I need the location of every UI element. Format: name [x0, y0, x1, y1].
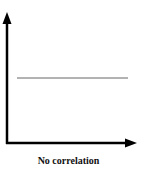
- x-axis-arrow-icon: [125, 139, 137, 148]
- x-axis: [6, 139, 137, 148]
- diagram-caption: No correlation: [0, 155, 137, 166]
- correlation-diagram: [0, 0, 144, 171]
- y-axis-arrow-icon: [3, 12, 12, 24]
- y-axis: [3, 12, 12, 144]
